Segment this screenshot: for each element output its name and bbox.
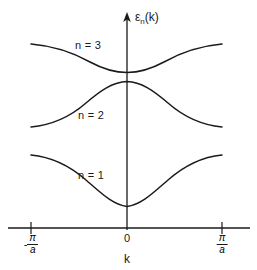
tick-label-left-numerator: π (27, 233, 38, 245)
x-axis-label: k (124, 253, 130, 265)
tick-label-origin: 0 (124, 233, 130, 244)
band-structure-plot (0, 0, 257, 270)
band-structure-figure: εn(k) n = 3 n = 2 n = 1 - π a 0 π a k (0, 0, 257, 270)
tick-label-right-numerator: π (217, 233, 228, 245)
band-label-n3: n = 3 (75, 40, 101, 51)
tick-label-right-denominator: a (217, 245, 228, 256)
y-axis-label: εn(k) (135, 11, 159, 26)
band-label-n1: n = 1 (78, 170, 104, 181)
tick-label-left: - π a (24, 233, 38, 255)
tick-label-right: π a (217, 233, 228, 255)
tick-label-left-denominator: a (27, 245, 38, 256)
band-label-n2: n = 2 (78, 110, 104, 121)
y-axis-label-argument: (k) (145, 10, 159, 24)
tick-label-left-fraction: π a (27, 233, 38, 255)
tick-label-right-fraction: π a (217, 233, 228, 255)
